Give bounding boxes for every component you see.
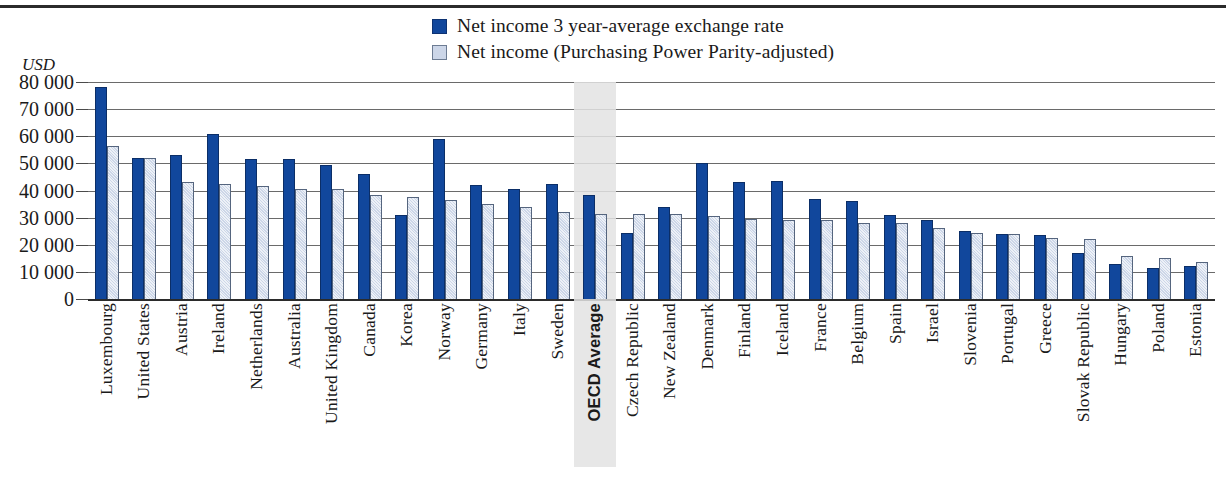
y-tick-label-80000: 80 000 (19, 72, 74, 92)
x-axis-label: Italy (511, 303, 529, 336)
chart-legend: Net income 3 year-average exchange rate … (432, 13, 952, 65)
bar-series-2[interactable] (520, 207, 532, 299)
bar-series-1[interactable] (470, 185, 482, 299)
bar-series-2[interactable] (858, 223, 870, 299)
legend-swatch-light-icon (432, 45, 447, 60)
bar-series-1[interactable] (207, 134, 219, 299)
x-axis-label: Iceland (774, 303, 792, 356)
bar-series-2[interactable] (370, 195, 382, 299)
bar-series-1[interactable] (132, 158, 144, 299)
bar-series-1[interactable] (358, 174, 370, 299)
top-rule-divider (0, 5, 1226, 8)
bar-group (88, 82, 126, 299)
legend-item-net-income-exchange-rate[interactable]: Net income 3 year-average exchange rate (432, 13, 952, 39)
bar-series-2[interactable] (971, 233, 983, 299)
bar-series-2[interactable] (445, 200, 457, 299)
bar-group (426, 82, 464, 299)
bar-series-1[interactable] (771, 181, 783, 299)
bar-series-2[interactable] (332, 189, 344, 299)
bar-series-2[interactable] (1008, 234, 1020, 299)
y-tick-label-50000: 50 000 (19, 153, 74, 173)
legend-item-net-income-ppp[interactable]: Net income (Purchasing Power Parity-adju… (432, 39, 952, 65)
bar-series-1[interactable] (1034, 235, 1046, 299)
bar-series-1[interactable] (283, 159, 295, 299)
bar-group (313, 82, 351, 299)
bar-series-2[interactable] (1046, 238, 1058, 299)
x-axis-category-labels: LuxembourgUnited StatesAustriaIrelandNet… (88, 303, 1215, 475)
bar-series-2[interactable] (933, 228, 945, 299)
bar-series-1[interactable] (1147, 268, 1159, 299)
x-axis-label: New Zealand (661, 303, 679, 399)
bar-group (1065, 82, 1103, 299)
bar-series-1[interactable] (996, 234, 1008, 299)
x-axis-label: Greece (1037, 303, 1055, 354)
bar-group (1102, 82, 1140, 299)
bar-group (576, 82, 614, 299)
bar-series-1[interactable] (433, 139, 445, 299)
bar-series-2[interactable] (670, 214, 682, 299)
bar-series-1[interactable] (809, 199, 821, 299)
bar-group (764, 82, 802, 299)
bar-series-1[interactable] (921, 220, 933, 299)
bar-series-2[interactable] (482, 204, 494, 299)
bar-series-2[interactable] (633, 214, 645, 299)
bar-series-1[interactable] (846, 201, 858, 299)
x-axis-label: Australia (286, 303, 304, 369)
bar-series-2[interactable] (558, 212, 570, 299)
bar-group (351, 82, 389, 299)
bar-group (652, 82, 690, 299)
bar-series-1[interactable] (621, 233, 633, 299)
bar-series-2[interactable] (1159, 258, 1171, 299)
y-tick-label-40000: 40 000 (19, 181, 74, 201)
bar-series-1[interactable] (884, 215, 896, 299)
bar-series-2[interactable] (896, 223, 908, 299)
bar-series-2[interactable] (1084, 239, 1096, 299)
bar-series-1[interactable] (546, 184, 558, 299)
bar-series-1[interactable] (658, 207, 670, 299)
bar-series-2[interactable] (783, 220, 795, 299)
x-axis-label: Germany (473, 303, 491, 370)
bar-series-2[interactable] (821, 220, 833, 299)
bar-series-1[interactable] (959, 231, 971, 299)
bar-series-1[interactable] (245, 159, 257, 299)
bar-series-2[interactable] (182, 182, 194, 299)
bar-series-2[interactable] (107, 146, 119, 299)
bar-group (1177, 82, 1215, 299)
bar-series-2[interactable] (595, 214, 607, 299)
y-tick-80000 (76, 82, 88, 83)
y-tick-label-70000: 70 000 (19, 99, 74, 119)
bar-series-2[interactable] (745, 219, 757, 299)
bar-series-2[interactable] (1196, 262, 1208, 299)
bar-series-2[interactable] (1121, 256, 1133, 299)
x-axis-label: Belgium (849, 303, 867, 365)
bar-series-1[interactable] (95, 87, 107, 299)
bar-series-2[interactable] (295, 189, 307, 299)
plot-area (88, 82, 1215, 299)
x-axis-label: Hungary (1112, 303, 1130, 366)
bar-series-1[interactable] (1109, 264, 1121, 299)
x-axis-label: Slovak Republic (1075, 303, 1093, 422)
y-tick-label-10000: 10 000 (19, 262, 74, 282)
x-axis-label: United States (135, 303, 153, 399)
bar-series-2[interactable] (257, 186, 269, 299)
x-axis-label: Netherlands (248, 303, 266, 390)
x-axis-label: Luxembourg (98, 303, 116, 395)
bar-series-1[interactable] (1072, 253, 1084, 299)
bar-series-1[interactable] (696, 163, 708, 299)
bar-series-1[interactable] (733, 182, 745, 299)
bar-series-2[interactable] (708, 216, 720, 299)
bar-group (839, 82, 877, 299)
bar-series-1[interactable] (170, 155, 182, 299)
y-tick-label-0: 0 (64, 289, 74, 309)
legend-label-series-1: Net income 3 year-average exchange rate (457, 16, 784, 36)
bar-series-1[interactable] (1184, 266, 1196, 299)
bar-series-1[interactable] (508, 189, 520, 299)
bar-series-1[interactable] (395, 215, 407, 299)
x-axis-label: Canada (361, 303, 379, 357)
bar-series-1[interactable] (583, 195, 595, 299)
bar-series-1[interactable] (320, 165, 332, 299)
bar-series-2[interactable] (407, 197, 419, 299)
bar-series-2[interactable] (219, 184, 231, 299)
y-tick-40000 (76, 191, 88, 192)
bar-series-2[interactable] (144, 158, 156, 299)
